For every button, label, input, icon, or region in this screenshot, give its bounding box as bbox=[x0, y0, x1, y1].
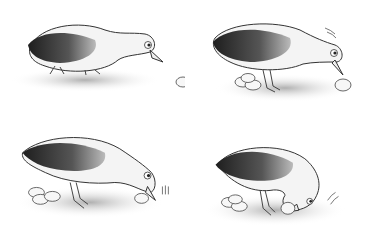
egg bbox=[281, 202, 295, 214]
beak bbox=[150, 50, 163, 62]
motion-lines bbox=[325, 28, 336, 38]
egg bbox=[135, 193, 149, 203]
bird-illustration-2 bbox=[185, 0, 370, 121]
motion-lines bbox=[162, 185, 168, 194]
egg-pile-3 bbox=[241, 74, 255, 83]
bird-illustration-1 bbox=[0, 0, 185, 121]
ground-shadow bbox=[215, 74, 355, 102]
egg bbox=[176, 77, 185, 87]
illustration-sequence bbox=[0, 0, 370, 243]
panel-1 bbox=[0, 0, 185, 121]
panel-3 bbox=[0, 121, 185, 242]
panel-4 bbox=[185, 121, 370, 242]
bird-illustration-4 bbox=[185, 121, 370, 242]
egg-pile-3 bbox=[228, 195, 242, 204]
bird-illustration-3 bbox=[0, 121, 185, 242]
egg-pile-3 bbox=[44, 191, 60, 201]
egg bbox=[335, 79, 351, 91]
panel-2 bbox=[185, 0, 370, 121]
